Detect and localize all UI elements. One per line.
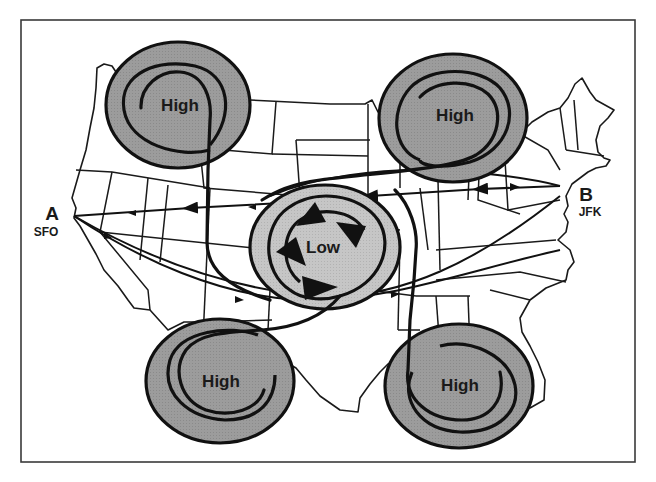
endpoint-a-code: SFO (34, 225, 59, 239)
endpoint-b-letter: B (579, 184, 593, 205)
low-label: Low (306, 238, 341, 257)
map-canvas: High High Low High High A SFO B (0, 0, 656, 482)
high-label-ne: High (436, 106, 474, 125)
low-pressure-center: Low (250, 185, 400, 309)
endpoint-a-letter: A (45, 203, 59, 224)
high-label-sw: High (202, 372, 240, 391)
high-label-se: High (441, 376, 479, 395)
high-label-nw: High (161, 96, 199, 115)
weather-route-diagram: High High Low High High A SFO B (0, 0, 656, 482)
endpoint-b-code: JFK (579, 205, 602, 219)
